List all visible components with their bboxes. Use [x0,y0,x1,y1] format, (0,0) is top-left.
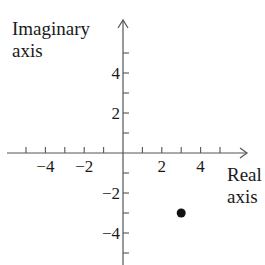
x-tick-label: −2 [75,157,93,176]
y-tick-label: −4 [102,224,121,243]
x-tick-label: 4 [196,157,205,176]
data-points [177,209,186,218]
x-tick-label: 2 [158,157,167,176]
data-point [177,209,186,218]
y-axis-title-line1: Imaginary [12,18,91,39]
x-axis-title-line1: Real [227,164,262,185]
y-tick-label: 4 [112,64,121,83]
x-tick-label: −4 [36,157,55,176]
x-axis-title-line2: axis [227,186,258,207]
y-tick-label: −2 [102,184,120,203]
complex-plane-chart: −4−22442−2−4 Imaginary axis Real axis [0,0,265,265]
axes [7,20,247,265]
y-axis-title-line2: axis [12,40,43,61]
y-tick-label: 2 [112,104,121,123]
